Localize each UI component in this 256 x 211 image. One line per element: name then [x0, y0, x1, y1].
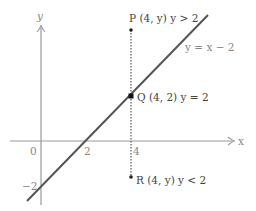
point-q — [129, 94, 134, 99]
origin-label: 0 — [30, 145, 37, 157]
line-equation-label: y = x − 2 — [184, 41, 234, 53]
y-tick-neg2-label: −2 — [22, 180, 37, 192]
y-axis-label: y — [36, 10, 44, 22]
point-p — [129, 28, 133, 32]
x-tick-2-label: 2 — [84, 145, 91, 157]
linear-inequality-diagram: y x 0 2 4 −2 y = x − 2 P (4, y) y > 2 Q … — [0, 0, 256, 211]
point-r — [129, 175, 133, 179]
x-tick-4-label: 4 — [133, 145, 140, 157]
point-r-label: R (4, y) y < 2 — [136, 174, 206, 186]
point-q-label: Q (4, 2) y = 2 — [137, 91, 209, 103]
point-p-label: P (4, y) y > 2 — [129, 12, 198, 24]
x-axis-label: x — [238, 135, 244, 147]
diagram-svg: y x 0 2 4 −2 y = x − 2 P (4, y) y > 2 Q … — [0, 0, 256, 211]
